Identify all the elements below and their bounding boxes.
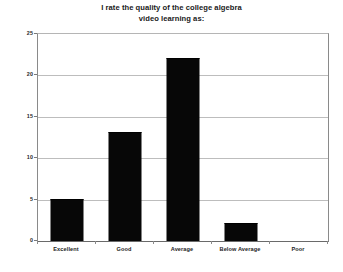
bar-chart: I rate the quality of the college algebr… <box>0 0 343 272</box>
bar-slot-average <box>154 34 212 241</box>
y-axis-tick-label-15: 15 <box>7 113 33 119</box>
chart-title-line-1: I rate the quality of the college algebr… <box>0 3 343 14</box>
x-axis-label-good: Good <box>95 246 153 252</box>
x-axis-tick-mark-3 <box>211 241 212 244</box>
x-axis-tick-mark-0 <box>37 241 38 244</box>
y-axis-tick-label-5: 5 <box>7 196 33 202</box>
bar-average <box>167 58 200 241</box>
x-axis-label-excellent: Excellent <box>37 246 95 252</box>
x-axis-label-poor: Poor <box>269 246 327 252</box>
x-axis-tick-mark-4 <box>269 241 270 244</box>
bar-slot-poor <box>270 34 328 241</box>
x-axis-tick-mark-1 <box>95 241 96 244</box>
bar-good <box>109 132 142 241</box>
y-axis-tick-label-25: 25 <box>7 30 33 36</box>
chart-title-line-2: video learning as: <box>0 14 343 25</box>
x-axis-tick-mark-2 <box>153 241 154 244</box>
bar-slot-good <box>96 34 154 241</box>
bar-slot-excellent <box>38 34 96 241</box>
bar-slot-below-average <box>212 34 270 241</box>
bar-excellent <box>51 199 84 241</box>
y-axis-tick-label-10: 10 <box>7 154 33 160</box>
bar-below-average <box>225 223 258 241</box>
x-axis-label-below-average: Below Average <box>211 246 269 252</box>
plot-area <box>37 33 329 242</box>
x-axis-tick-mark-5 <box>327 241 328 244</box>
chart-title: I rate the quality of the college algebr… <box>0 3 343 24</box>
x-axis-label-average: Average <box>153 246 211 252</box>
y-axis-tick-label-0: 0 <box>7 237 33 243</box>
y-axis-tick-label-20: 20 <box>7 71 33 77</box>
